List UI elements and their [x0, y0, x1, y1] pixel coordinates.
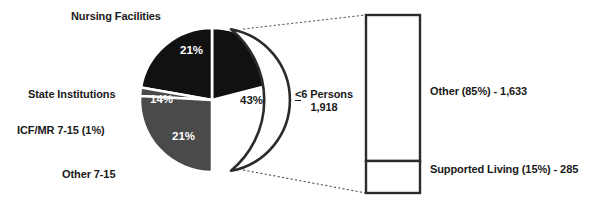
bar-label-supported-living: Supported Living (15%) - 285 [430, 163, 578, 176]
pie-and-bar-callout-figure: Nursing Facilities State Institutions IC… [0, 0, 605, 202]
slice-value-nursing-facilities: 21% [180, 44, 203, 58]
label-other-7-15: Other 7-15 [62, 168, 115, 181]
label-state-institutions: State Institutions [28, 88, 115, 101]
slice-value-state-institutions: 14% [150, 93, 173, 107]
callout-source-count: 1,918 [288, 101, 360, 114]
callout-source-line1: <6 Persons [288, 88, 360, 101]
bar-label-other: Other (85%) - 1,633 [430, 85, 527, 98]
connector-line-bottom [243, 170, 366, 193]
callout-bar-group [366, 15, 420, 193]
label-icf-mr-7-15: ICF/MR 7-15 (1%) [17, 124, 105, 137]
slice-value-six-persons: 43% [240, 94, 263, 108]
connector-line-top [243, 15, 366, 29]
bar-segment-other[interactable] [366, 15, 420, 161]
callout-source-persons-text: 6 Persons [301, 88, 353, 100]
label-nursing-facilities: Nursing Facilities [71, 10, 161, 23]
slice-value-other-7-15: 21% [172, 130, 195, 144]
bar-segment-supported-living[interactable] [366, 161, 420, 193]
callout-source-label: <6 Persons 1,918 [288, 88, 360, 114]
